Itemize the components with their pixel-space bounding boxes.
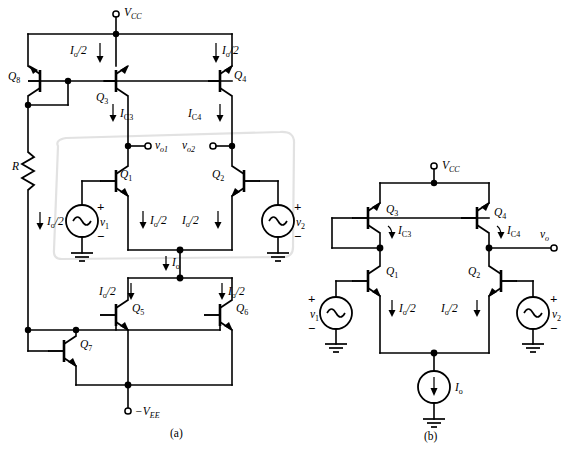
transistor-q7-a (48, 336, 77, 367)
current-io2-q1-a: Io/2 (140, 211, 168, 229)
svg-text:Io/2: Io/2 (69, 44, 87, 59)
svg-text:IC4: IC4 (187, 107, 201, 122)
q4-label-b: Q4 (494, 206, 506, 221)
svg-text:Io/2: Io/2 (227, 285, 245, 300)
q4-label-a: Q4 (234, 69, 246, 84)
v2-plus-b: + (550, 291, 557, 306)
vo1-terminal (145, 143, 151, 149)
source-v1-b (320, 297, 352, 352)
svg-text:Io/2: Io/2 (181, 214, 199, 229)
current-io2-r: Io/2 (37, 212, 65, 230)
transistor-q6-a (204, 300, 233, 331)
q3-label-b: Q3 (386, 203, 398, 218)
transistor-q1-b (352, 266, 381, 297)
q3-label-a: Q3 (96, 91, 108, 106)
current-ic4-b: IC4 (497, 224, 520, 239)
vo-label-b: vo (540, 228, 549, 243)
q2-label-a: Q2 (212, 168, 224, 183)
q1-label-a: Q1 (120, 168, 132, 183)
q8-label: Q8 (8, 70, 20, 85)
current-io2-q5-a: Io/2 (98, 283, 135, 300)
current-ic3-b: IC3 (388, 224, 411, 239)
source-v1-a (66, 205, 98, 261)
transistor-q2-b (488, 266, 517, 297)
svg-text:Io/2: Io/2 (221, 44, 239, 59)
transistor-q8 (28, 65, 40, 96)
vo2-label: vo2 (182, 139, 195, 154)
resistor-r (22, 152, 34, 190)
q5-label-a: Q5 (132, 302, 144, 317)
current-io2-q2-a: Io/2 (181, 211, 222, 229)
svg-text:Io/2: Io/2 (398, 302, 416, 317)
io-source-label-b: Io (454, 381, 463, 396)
current-io2-q3-top: Io/2 (69, 43, 104, 63)
vee-terminal-a (125, 408, 131, 414)
current-io2-q4-top: Io/2 (213, 43, 240, 63)
svg-text:Io/2: Io/2 (149, 214, 167, 229)
current-ic3-a: IC3 (110, 104, 134, 122)
vcc-terminal-a (113, 11, 119, 17)
vo1-label: vo1 (155, 139, 168, 154)
vcc-terminal-b (431, 163, 437, 169)
figure-canvas: VCC Q8 Q3 Q4 (0, 0, 576, 453)
v2-minus-b: − (550, 321, 557, 336)
v1-plus-b: + (308, 291, 315, 306)
highlight-region (54, 132, 294, 259)
svg-text:Io/2: Io/2 (98, 285, 116, 300)
caption-a: (a) (170, 427, 183, 440)
q1-label-b: Q1 (386, 265, 398, 280)
svg-text:IC3: IC3 (397, 224, 411, 239)
svg-text:IC4: IC4 (506, 224, 520, 239)
transistor-q5-a (100, 300, 129, 331)
source-v2-b (517, 297, 549, 352)
vcc-label-b: VCC (442, 159, 460, 174)
v1-minus-a: − (97, 229, 104, 244)
transistor-q2-a (231, 166, 260, 197)
r-label: R (11, 160, 19, 172)
circuit-diagram: VCC Q8 Q3 Q4 (0, 0, 576, 453)
caption-b: (b) (424, 430, 438, 443)
current-io2-q1-b: Io/2 (389, 300, 417, 317)
svg-text:IC3: IC3 (119, 107, 133, 122)
svg-text:Io/2: Io/2 (440, 302, 458, 317)
current-ic4-a: IC4 (187, 104, 224, 122)
vcc-label-a: VCC (124, 6, 142, 21)
source-v2-a (262, 205, 294, 261)
vo-terminal-b (551, 245, 557, 251)
current-io2-q2-b: Io/2 (440, 300, 481, 317)
q6-label-a: Q6 (236, 302, 248, 317)
q7-label-a: Q7 (80, 338, 92, 353)
v2-minus-a: − (294, 229, 301, 244)
vo2-terminal (210, 143, 216, 149)
current-io2-q6-a: Io/2 (219, 283, 246, 300)
v1-plus-a: + (97, 199, 104, 214)
v2-plus-a: + (294, 199, 301, 214)
current-source-io-b (418, 371, 450, 427)
v1-minus-b: − (308, 321, 315, 336)
q2-label-b: Q2 (468, 265, 480, 280)
vee-label-a: −VEE (135, 405, 160, 420)
